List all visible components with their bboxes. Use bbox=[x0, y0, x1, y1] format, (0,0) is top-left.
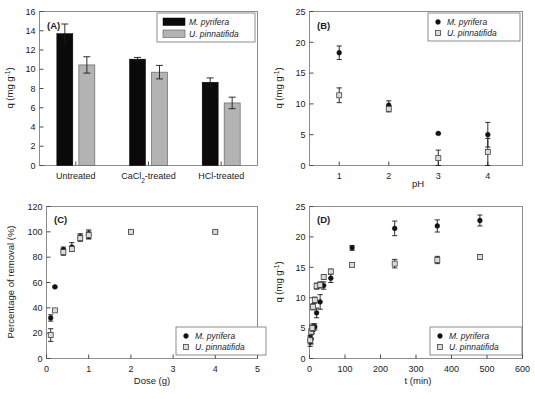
y-tick-label: 10 bbox=[295, 293, 305, 303]
y-tick-label: 60 bbox=[32, 278, 42, 288]
y-tick-label: 15 bbox=[295, 68, 305, 78]
legend-label-u-pinnatifida: U. pinnatifida bbox=[447, 28, 497, 38]
panel-c-x-ticks: 012345 bbox=[44, 355, 260, 374]
data-point bbox=[213, 229, 218, 234]
y-tick-label: 0 bbox=[300, 161, 305, 171]
x-tick-label: Untreated bbox=[56, 171, 96, 181]
y-tick-label: 80 bbox=[32, 252, 42, 262]
x-tick-label: 1 bbox=[86, 364, 91, 374]
data-point bbox=[392, 226, 397, 231]
y-tick-label: 14 bbox=[25, 26, 35, 36]
data-point bbox=[52, 308, 57, 313]
panel-a-legend: M. pyrifera U. pinnatifida bbox=[157, 13, 255, 42]
panel-d-legend: M. pyrifera U. pinnatifida bbox=[430, 327, 522, 355]
data-point bbox=[478, 218, 483, 223]
y-tick-label: 16 bbox=[25, 7, 35, 17]
panel-d-x-ticks: 0100200300400500600 bbox=[307, 355, 530, 374]
data-point bbox=[48, 333, 53, 338]
x-tick-label: CaCl2-treated bbox=[121, 171, 176, 184]
data-point bbox=[86, 233, 91, 238]
panel-a-y-ticks: 0246810121416 bbox=[25, 7, 43, 171]
data-point bbox=[69, 246, 74, 251]
panel-b-points bbox=[337, 46, 491, 166]
panel-a-label: (A) bbox=[47, 20, 60, 31]
legend-swatch-m-pyrifera bbox=[163, 18, 185, 26]
data-point bbox=[485, 149, 490, 154]
panel-a-bars bbox=[57, 24, 240, 165]
x-tick-label: 0 bbox=[44, 364, 49, 374]
panel-c: 020406080100120 012345 Percentage of rem… bbox=[0, 196, 270, 399]
panel-c-y-ticks: 020406080100120 bbox=[27, 202, 50, 364]
y-tick-label: 20 bbox=[295, 232, 305, 242]
data-point bbox=[321, 275, 326, 280]
data-point bbox=[435, 258, 440, 263]
panel-a-svg: 0246810121416 UntreatedCaCl2-treatedHCl-… bbox=[0, 0, 270, 198]
y-tick-label: 8 bbox=[30, 84, 35, 94]
y-tick-label: 12 bbox=[25, 45, 35, 55]
bar bbox=[57, 34, 73, 166]
data-point bbox=[318, 300, 323, 305]
panel-a-y-axis-title: q (mg g-1) bbox=[4, 67, 16, 108]
legend-label-m-pyrifera: M. pyrifera bbox=[189, 17, 229, 27]
data-point bbox=[128, 229, 133, 234]
data-point bbox=[337, 50, 342, 55]
y-tick-label: 5 bbox=[300, 130, 305, 140]
panel-b-svg: 0510152025 1234 q (mg g-1) pH (B) M. pyr… bbox=[268, 0, 535, 198]
data-point bbox=[312, 298, 317, 303]
x-tick-label: 100 bbox=[337, 364, 352, 374]
legend-label-u-pinnatifida: U. pinnatifida bbox=[189, 29, 239, 39]
panel-c-label: (C) bbox=[54, 214, 67, 225]
x-tick-label: 2 bbox=[386, 171, 391, 181]
x-tick-label: 3 bbox=[436, 171, 441, 181]
panel-c-x-axis-title: Dose (g) bbox=[134, 375, 170, 386]
legend-marker-u-pinnatifida bbox=[436, 31, 441, 36]
legend-label-m-pyrifera: M. pyrifera bbox=[449, 331, 489, 341]
data-point bbox=[392, 261, 397, 266]
x-tick-label: 5 bbox=[255, 364, 260, 374]
bar bbox=[130, 59, 146, 165]
x-tick-label: 0 bbox=[307, 364, 312, 374]
y-tick-label: 40 bbox=[32, 303, 42, 313]
x-tick-label: 400 bbox=[444, 364, 459, 374]
legend-label-u-pinnatifida: U. pinnatifida bbox=[195, 342, 245, 352]
x-tick-label: 200 bbox=[373, 364, 388, 374]
x-tick-label: 4 bbox=[213, 364, 218, 374]
panel-d-x-axis-title: t (min) bbox=[405, 375, 432, 386]
y-tick-label: 0 bbox=[30, 161, 35, 171]
panel-b-y-ticks: 0510152025 bbox=[295, 7, 313, 171]
panel-b-legend: M. pyrifera U. pinnatifida bbox=[428, 13, 520, 41]
y-tick-label: 25 bbox=[295, 7, 305, 17]
bar bbox=[79, 65, 95, 166]
data-point bbox=[337, 93, 342, 98]
data-point bbox=[435, 224, 440, 229]
x-tick-label: 500 bbox=[479, 364, 494, 374]
bar bbox=[152, 72, 168, 165]
data-point bbox=[350, 245, 355, 250]
figure-container: 0246810121416 UntreatedCaCl2-treatedHCl-… bbox=[0, 0, 535, 399]
y-tick-label: 20 bbox=[32, 328, 42, 338]
panel-d-y-axis-title: q (mg g-1) bbox=[273, 261, 285, 302]
x-tick-label: 3 bbox=[171, 364, 176, 374]
legend-label-m-pyrifera: M. pyrifera bbox=[447, 17, 487, 27]
y-tick-label: 20 bbox=[295, 38, 305, 48]
panel-d: 0510152025 0100200300400500600 q (mg g-1… bbox=[268, 196, 535, 399]
data-point bbox=[310, 326, 315, 331]
bar bbox=[224, 103, 240, 166]
panel-c-y-axis-title: Percentage of removal (%) bbox=[5, 226, 16, 339]
y-tick-label: 4 bbox=[30, 122, 35, 132]
data-point bbox=[314, 311, 319, 316]
panel-d-label: (D) bbox=[317, 214, 330, 225]
panel-d-svg: 0510152025 0100200300400500600 q (mg g-1… bbox=[268, 196, 535, 399]
panel-c-points bbox=[48, 229, 218, 341]
legend-swatch-u-pinnatifida bbox=[163, 30, 185, 38]
legend-label-m-pyrifera: M. pyrifera bbox=[195, 331, 235, 341]
data-point bbox=[386, 106, 391, 111]
data-point bbox=[311, 304, 316, 309]
panel-a: 0246810121416 UntreatedCaCl2-treatedHCl-… bbox=[0, 0, 270, 198]
legend-marker-m-pyrifera bbox=[184, 334, 189, 339]
y-tick-label: 6 bbox=[30, 103, 35, 113]
data-point bbox=[308, 338, 313, 343]
panel-b-label: (B) bbox=[317, 20, 330, 31]
x-tick-label: 2 bbox=[128, 364, 133, 374]
y-tick-label: 0 bbox=[37, 354, 42, 364]
